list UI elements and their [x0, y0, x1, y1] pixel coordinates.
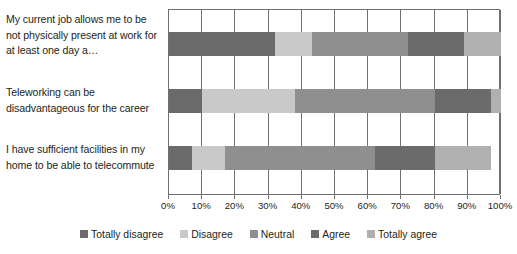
category-label: My current job allows me to be not physi… — [6, 12, 162, 59]
axis-tick-label: 10% — [192, 200, 211, 211]
legend-item[interactable]: Totally disagree — [80, 229, 163, 240]
bar-segment — [169, 32, 275, 56]
bar-segment — [202, 89, 295, 113]
axis-tick-label: 70% — [391, 200, 410, 211]
bar — [169, 89, 501, 113]
axis-tick — [334, 195, 335, 199]
bar-group — [169, 10, 499, 194]
bar-segment — [275, 32, 312, 56]
bar — [169, 32, 501, 56]
legend-swatch-icon — [80, 230, 88, 238]
axis-tick-label: 50% — [324, 200, 343, 211]
axis-tick — [301, 195, 302, 199]
legend-swatch-icon — [180, 230, 188, 238]
axis-tick — [168, 195, 169, 199]
axis-tick — [400, 195, 401, 199]
legend-label: Agree — [322, 229, 350, 240]
bar-segment — [225, 146, 374, 170]
axis-tick-label: 80% — [424, 200, 443, 211]
legend-label: Totally disagree — [91, 229, 163, 240]
legend-swatch-icon — [250, 230, 258, 238]
axis-tick-label: 30% — [258, 200, 277, 211]
bar-segment — [169, 146, 192, 170]
axis-tick — [467, 195, 468, 199]
bar-segment — [375, 146, 435, 170]
axis-tick — [234, 195, 235, 199]
bar-segment — [312, 32, 408, 56]
stacked-bar-chart: My current job allows me to be not physi… — [0, 0, 517, 254]
bar-segment — [464, 32, 501, 56]
legend-label: Disagree — [191, 229, 233, 240]
bar-segment — [435, 89, 491, 113]
bar-segment — [169, 89, 202, 113]
legend-item[interactable]: Disagree — [180, 229, 233, 240]
axis-tick — [434, 195, 435, 199]
bar-segment — [192, 146, 225, 170]
axis-tick-label: 40% — [291, 200, 310, 211]
axis-tick — [268, 195, 269, 199]
legend-item[interactable]: Neutral — [250, 229, 295, 240]
axis-tick — [201, 195, 202, 199]
legend-item[interactable]: Agree — [311, 229, 350, 240]
axis-tick — [367, 195, 368, 199]
category-label: I have sufficient facilities in my home … — [6, 142, 162, 173]
category-label-group: My current job allows me to be not physi… — [6, 6, 164, 196]
legend-swatch-icon — [311, 230, 319, 238]
bar-segment — [295, 89, 434, 113]
category-label: Teleworking can be disadvantageous for t… — [6, 85, 162, 116]
axis-tick-label: 100% — [488, 200, 513, 211]
axis-tick-label: 90% — [457, 200, 476, 211]
bar — [169, 146, 491, 170]
legend-item[interactable]: Totally agree — [367, 229, 437, 240]
bar-segment — [491, 89, 501, 113]
legend-label: Neutral — [261, 229, 295, 240]
legend-swatch-icon — [367, 230, 375, 238]
legend: Totally disagreeDisagreeNeutralAgreeTota… — [0, 224, 517, 244]
x-axis: 0%10%20%30%40%50%60%70%80%90%100% — [168, 195, 500, 215]
bar-segment — [435, 146, 491, 170]
legend-label: Totally agree — [378, 229, 437, 240]
axis-tick-label: 20% — [225, 200, 244, 211]
axis-tick-label: 60% — [358, 200, 377, 211]
plot-area — [168, 9, 500, 195]
bar-segment — [408, 32, 464, 56]
axis-tick — [500, 195, 501, 199]
axis-tick-label: 0% — [161, 200, 175, 211]
